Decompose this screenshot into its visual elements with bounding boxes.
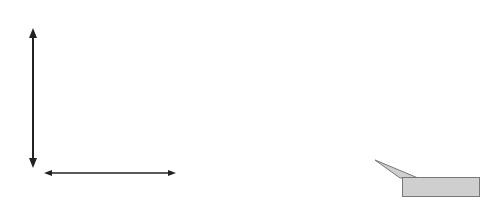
y-axis-arrow — [0, 0, 489, 204]
callout-largest-nmse — [402, 177, 480, 197]
